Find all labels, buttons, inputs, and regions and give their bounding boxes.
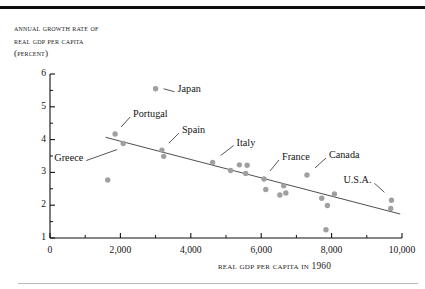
data-point	[228, 168, 233, 173]
annotation-leader-line	[315, 158, 326, 168]
data-point	[121, 141, 126, 146]
annotation-leader-line	[169, 133, 179, 143]
annotation-leader-line	[121, 117, 130, 127]
point-label-greece: Greece	[0, 152, 83, 163]
data-point	[237, 162, 242, 167]
data-point	[319, 196, 324, 201]
bottom-rule-divider	[18, 283, 418, 284]
data-point	[244, 162, 249, 167]
data-point	[153, 86, 158, 91]
data-point	[325, 203, 330, 208]
x-tick-label: 0	[20, 244, 80, 255]
data-point	[161, 154, 166, 159]
point-label-portugal: Portugal	[133, 108, 168, 119]
point-label-france: France	[282, 151, 310, 162]
x-tick-label: 8,000	[302, 244, 362, 255]
data-point	[112, 131, 117, 136]
data-point	[332, 191, 337, 196]
x-tick-label: 4,000	[161, 244, 221, 255]
x-tick-label: 6,000	[231, 244, 291, 255]
scatter-figure: Annual growth rate of real GDP per capit…	[0, 0, 425, 289]
data-point	[263, 187, 268, 192]
data-point	[389, 198, 394, 203]
annotation-leader-line	[164, 89, 175, 92]
annotation-leader-line	[374, 183, 384, 192]
annotation-leader-line	[221, 146, 234, 156]
y-tick-label: 6	[36, 67, 46, 78]
annotation-leader-line	[86, 150, 117, 161]
point-label-spain: Spain	[182, 124, 205, 135]
point-label-usa: U.S.A.	[0, 174, 371, 185]
y-tick-label: 4	[36, 133, 46, 144]
x-axis-title: Real GDP per capita in 1960	[218, 261, 331, 271]
y-tick-label: 2	[36, 198, 46, 209]
y-tick-label: 5	[36, 100, 46, 111]
data-point	[277, 192, 282, 197]
x-tick-label: 2,000	[90, 244, 150, 255]
data-point	[388, 206, 393, 211]
annotation-leader-line	[270, 160, 279, 171]
y-tick-label: 1	[36, 231, 46, 242]
point-label-japan: Japan	[178, 83, 201, 94]
data-point	[323, 227, 328, 232]
data-point	[210, 160, 215, 165]
x-tick-label: 10,000	[372, 244, 425, 255]
data-point	[159, 147, 164, 152]
point-label-canada: Canada	[329, 149, 360, 160]
data-point	[283, 190, 288, 195]
point-label-italy: Italy	[237, 137, 256, 148]
